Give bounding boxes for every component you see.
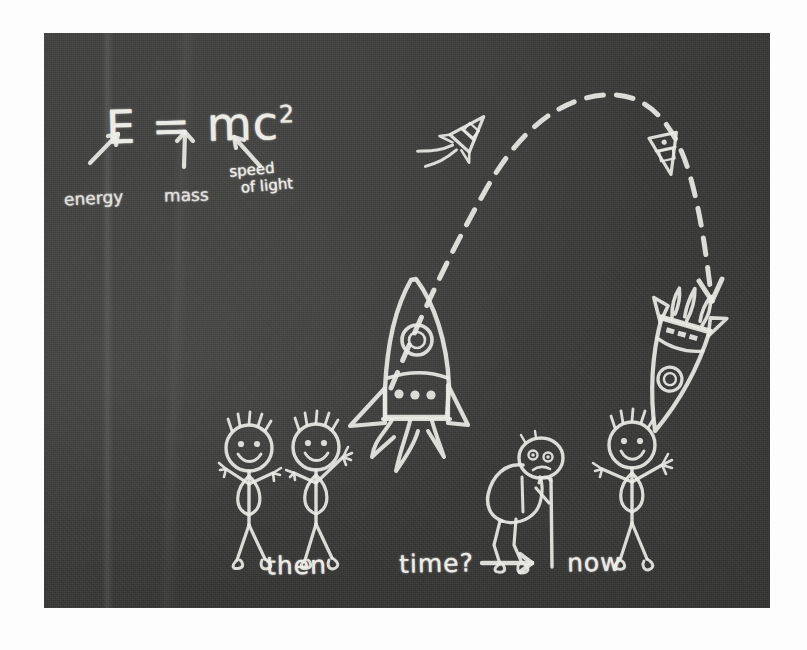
figure-child-right xyxy=(286,411,352,569)
label-mass: mass xyxy=(164,185,209,206)
equation-base: E = mc xyxy=(105,96,279,155)
figure-young-person xyxy=(593,409,672,570)
figure-child-left xyxy=(219,412,281,569)
small-rocket-descending xyxy=(649,132,685,177)
caption-then: then xyxy=(266,550,327,580)
chalkboard: E = mc2 energy mass speedof light then t… xyxy=(44,33,770,608)
equation-e-mc2: E = mc2 xyxy=(105,96,296,155)
launching-rocket xyxy=(350,279,468,471)
label-energy: energy xyxy=(64,186,124,209)
dashed-arc xyxy=(391,95,722,388)
label-speed-of-light: speedof light xyxy=(229,158,294,198)
landing-rocket xyxy=(619,278,733,441)
scene-root: E = mc2 energy mass speedof light then t… xyxy=(0,0,807,650)
caption-now: now xyxy=(567,548,622,578)
equation-exponent: 2 xyxy=(278,100,295,128)
caption-time: time? xyxy=(399,548,474,578)
small-rocket-ascending xyxy=(414,99,499,186)
arrow-right-icon xyxy=(482,554,532,572)
figure-old-person xyxy=(488,431,563,573)
chalk-drawing-layer: E = mc2 energy mass speedof light then t… xyxy=(44,33,770,608)
